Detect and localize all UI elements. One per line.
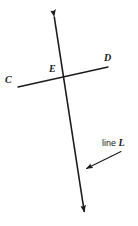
point-label-e: E	[49, 64, 56, 74]
point-label-c: C	[5, 75, 12, 85]
callout-prefix-text: line	[102, 138, 116, 148]
geometry-canvas	[0, 0, 138, 226]
line-l-callout: line L	[102, 137, 125, 149]
point-label-d: D	[104, 53, 111, 63]
geometry-figure: C D E line L	[0, 0, 138, 226]
callout-leader-arrow	[87, 152, 122, 169]
callout-name-text: L	[119, 137, 125, 148]
line-l	[54, 17, 84, 213]
